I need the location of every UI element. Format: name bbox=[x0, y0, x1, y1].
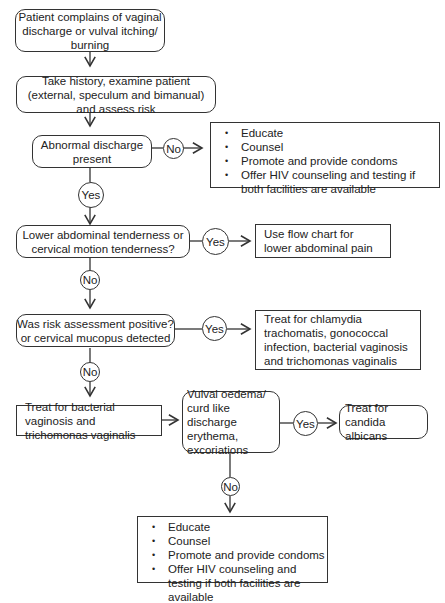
advice-box-bottom: Educate Counsel Promote and provide cond… bbox=[137, 516, 328, 583]
advice-item: Promote and provide condoms bbox=[229, 154, 439, 168]
lower-abdominal-node: Lower abdominal tenderness or cervical m… bbox=[16, 225, 190, 258]
yes-label: Yes bbox=[78, 182, 104, 208]
advice-item: Educate bbox=[229, 126, 439, 140]
advice-item: Offer HIV counseling and testing if both… bbox=[229, 168, 439, 196]
treat-chlamydia-box: Treat for chlamydia trachomatis, gonococ… bbox=[255, 310, 421, 370]
no-label: No bbox=[163, 138, 184, 159]
treat-bv-box: Treat for bacterial vaginosis and tricho… bbox=[16, 405, 162, 436]
advice-item: Offer HIV counseling and testing if both… bbox=[156, 562, 327, 603]
advice-item: Counsel bbox=[156, 534, 327, 548]
history-node: Take history, examine patient (external,… bbox=[16, 76, 216, 113]
risk-assessment-node: Was risk assessment positive? or cervica… bbox=[16, 314, 175, 347]
advice-item: Counsel bbox=[229, 140, 439, 154]
start-node: Patient complains of vaginal discharge o… bbox=[15, 9, 165, 52]
yes-label: Yes bbox=[202, 228, 229, 255]
advice-item: Educate bbox=[156, 520, 327, 534]
abnormal-discharge-node: Abnormal discharge present bbox=[32, 135, 152, 168]
advice-item: Promote and provide condoms bbox=[156, 548, 327, 562]
yes-label: Yes bbox=[202, 316, 227, 341]
yes-label: Yes bbox=[293, 411, 318, 436]
advice-box-top: Educate Counsel Promote and provide cond… bbox=[210, 122, 440, 188]
vulval-oedema-node: Vulval oedema/ curd like discharge eryth… bbox=[182, 391, 280, 453]
no-label: No bbox=[80, 362, 100, 382]
no-label: No bbox=[221, 477, 240, 496]
no-label: No bbox=[80, 270, 100, 290]
lower-abdominal-pain-box: Use flow chart for lower abdominal pain bbox=[255, 224, 391, 258]
treat-candida-node: Treat for candida albicans bbox=[339, 405, 428, 439]
